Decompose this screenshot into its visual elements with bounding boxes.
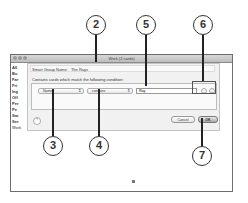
condition-value-input[interactable]: Ray [136,88,197,94]
leader-line-4 [98,89,100,136]
main-window: Work (2 cards) All Bu Far Fri Ing Off Pe… [10,54,233,192]
leader-line-3 [52,89,54,136]
highlight-box-6 [192,81,216,94]
help-button[interactable]: ? [33,117,41,125]
leader-line-6 [202,35,204,81]
group-sidebar: All Bu Far Fri Ing Off Per Pe Sar Ser Wo… [12,65,24,131]
leader-line-7 [201,118,203,146]
smart-group-name-label: Smart Group Name: [32,67,68,72]
leader-line-5 [145,35,147,86]
callout-3: 3 [43,136,63,156]
smart-group-name-input[interactable]: The Rays [71,67,88,72]
callout-4: 4 [89,136,109,156]
callout-7: 7 [192,146,212,166]
smart-group-name-row: Smart Group Name: The Rays [32,67,88,72]
field-popup[interactable]: Name ⇕ [38,88,84,94]
leader-line-2 [95,35,97,62]
title-bar: Work (2 cards) [11,55,232,63]
conditions-label: Contains cards which match the following… [32,77,124,82]
cancel-button[interactable]: Cancel [171,116,195,123]
callout-5: 5 [136,15,156,35]
condition-box: Name ⇕ contains ⇕ Ray – + [31,83,217,110]
callout-2: 2 [86,15,106,35]
scroll-indicator[interactable] [132,180,135,183]
popup-arrows-icon: ⇕ [127,89,130,94]
window-title: Work (2 cards) [11,55,232,62]
popup-arrows-icon: ⇕ [78,89,81,94]
callout-6: 6 [193,15,213,35]
operator-popup[interactable]: contains ⇕ [87,88,133,94]
smart-group-sheet: Smart Group Name: The Rays Contains card… [27,63,220,131]
